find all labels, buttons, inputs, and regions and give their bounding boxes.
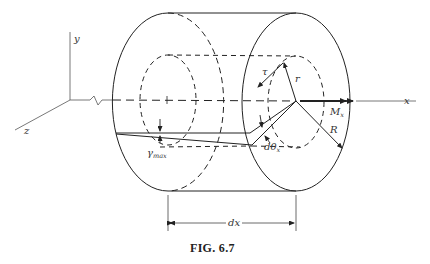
coordinate-axes xyxy=(15,32,416,130)
dashed-bottom-inner xyxy=(160,146,252,147)
r-label: r xyxy=(295,73,301,84)
inner-top-line xyxy=(168,55,296,56)
cylinder xyxy=(112,13,350,191)
right-face xyxy=(242,13,350,191)
dtheta-label: dθx xyxy=(264,141,280,154)
radius-R-label: R xyxy=(329,124,338,135)
dx-label: dx xyxy=(228,217,240,228)
x-axis-label: x xyxy=(404,95,410,106)
torsion-diagram: y z x xyxy=(0,0,430,264)
deformed-generator xyxy=(116,134,252,145)
z-axis-label: z xyxy=(23,125,30,136)
x-axis-break xyxy=(70,96,113,105)
figure-caption: FIG. 6.7 xyxy=(190,241,235,255)
moment-label: Mx xyxy=(329,106,344,119)
centerline xyxy=(113,100,296,101)
gamma-max-label: γmax xyxy=(147,147,167,160)
tau-label: τ xyxy=(262,66,268,77)
left-face-solid xyxy=(112,13,168,191)
radius-to-deformed xyxy=(252,101,296,145)
y-axis-label: y xyxy=(73,33,80,44)
